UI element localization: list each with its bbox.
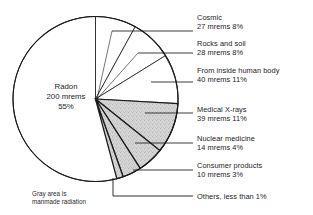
callout-nuclear-medicine-title: Nuclear medicine xyxy=(197,134,255,143)
callout-medical-xrays: Medical X-rays 39 mrems 11% xyxy=(197,105,247,124)
callout-consumer-products-value: 10 mrems 3% xyxy=(197,170,262,179)
callout-consumer-products-title: Consumer products xyxy=(197,161,262,170)
callout-nuclear-medicine-value: 14 mrems 4% xyxy=(197,143,255,152)
callout-medical-xrays-value: 39 mrems 11% xyxy=(197,114,247,123)
radon-percent: 55% xyxy=(29,102,103,112)
callout-consumer-products: Consumer products 10 mrems 3% xyxy=(197,161,262,180)
callout-nuclear-medicine: Nuclear medicine 14 mrems 4% xyxy=(197,134,255,153)
callout-from-inside-human-body: From inside human body 40 mrems 11% xyxy=(197,66,279,85)
callout-from-inside-human-body-title: From inside human body xyxy=(197,66,279,75)
radon-mrems: 200 mrems xyxy=(29,92,103,102)
gray-area-note-line1: Gray area is xyxy=(32,190,86,198)
callout-rocks-and-soil-title: Rocks and soil xyxy=(197,39,246,48)
callout-rocks-and-soil-value: 28 mrems 8% xyxy=(197,48,246,57)
callout-cosmic-value: 27 mrems 8% xyxy=(197,22,243,31)
pie-center-label-radon: Radon 200 mrems 55% xyxy=(29,82,103,113)
gray-area-note: Gray area is manmade radiation xyxy=(32,190,86,205)
leader-line-others xyxy=(113,178,193,196)
callout-from-inside-human-body-value: 40 mrems 11% xyxy=(197,75,279,84)
callout-others-title: Others, less than 1% xyxy=(197,192,267,201)
callout-cosmic-title: Cosmic xyxy=(197,13,243,22)
callout-medical-xrays-title: Medical X-rays xyxy=(197,105,247,114)
callout-rocks-and-soil: Rocks and soil 28 mrems 8% xyxy=(197,39,246,58)
radon-name: Radon xyxy=(29,82,103,92)
callout-cosmic: Cosmic 27 mrems 8% xyxy=(197,13,243,32)
gray-area-note-line2: manmade radiation xyxy=(32,198,86,206)
pie-chart-figure: Radon 200 mrems 55% Cosmic 27 mrems 8% R… xyxy=(0,0,313,215)
callout-others: Others, less than 1% xyxy=(197,192,267,201)
